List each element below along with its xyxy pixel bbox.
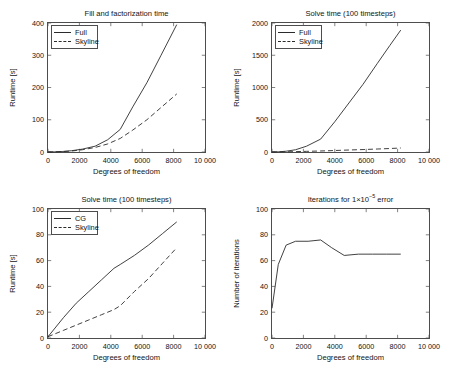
legend-entry-label: Full bbox=[299, 28, 311, 37]
y-axis-label-iterations-for-error: Number of iterations bbox=[232, 188, 241, 359]
series-line-number-of-iterations bbox=[272, 240, 401, 308]
panel-title-suffix: error bbox=[375, 195, 393, 204]
x-tick-label: 10 000 bbox=[409, 156, 449, 165]
x-axis-label-solve-time-cg-vs-skyline: Degrees of freedom bbox=[17, 353, 236, 362]
panel-title-iterations-for-error: Iterations for 1×10−5 error bbox=[231, 195, 449, 204]
plot-area-iterations-for-error bbox=[271, 208, 430, 339]
y-axis-label-fill-and-factorization-time: Runtime [s] bbox=[8, 2, 17, 173]
panel-title-prefix: Iterations for 1×10 bbox=[308, 195, 369, 204]
legend-line-sample-dashed-icon bbox=[278, 41, 295, 42]
legend-line-sample-dashed-icon bbox=[54, 227, 71, 228]
series-line-skyline bbox=[48, 248, 177, 337]
legend-line-sample-solid-icon bbox=[54, 32, 71, 33]
legend-entry-skyline[interactable]: Skyline bbox=[54, 37, 93, 46]
x-tick-label: 10 000 bbox=[185, 156, 225, 165]
y-axis-label-solve-time-full-vs-skyline: Runtime [s] bbox=[232, 2, 241, 173]
legend-solve-time-full-vs-skyline[interactable]: FullSkyline bbox=[275, 25, 322, 49]
legend-entry-label: Skyline bbox=[299, 37, 323, 46]
legend-entry-skyline[interactable]: Skyline bbox=[54, 223, 93, 232]
legend-entry-label: Full bbox=[75, 28, 87, 37]
y-axis-label-solve-time-cg-vs-skyline: Runtime [s] bbox=[8, 188, 17, 359]
legend-solve-time-cg-vs-skyline[interactable]: CGSkyline bbox=[51, 211, 98, 235]
legend-line-sample-solid-icon bbox=[278, 32, 295, 33]
legend-entry-label: CG bbox=[75, 214, 86, 223]
x-axis-label-fill-and-factorization-time: Degrees of freedom bbox=[17, 167, 236, 176]
panel-title-fill-and-factorization-time: Fill and factorization time bbox=[7, 9, 246, 18]
legend-line-sample-dashed-icon bbox=[54, 41, 71, 42]
series-line-cg bbox=[48, 222, 177, 337]
panel-title-solve-time-full-vs-skyline: Solve time (100 timesteps) bbox=[231, 9, 449, 18]
panel-title-solve-time-cg-vs-skyline: Solve time (100 timesteps) bbox=[7, 195, 246, 204]
legend-entry-full[interactable]: Full bbox=[54, 28, 93, 37]
x-axis-label-iterations-for-error: Degrees of freedom bbox=[241, 353, 449, 362]
legend-entry-skyline[interactable]: Skyline bbox=[278, 37, 317, 46]
series-line-skyline bbox=[48, 94, 177, 152]
legend-fill-and-factorization-time[interactable]: FullSkyline bbox=[51, 25, 98, 49]
x-tick-label: 10 000 bbox=[409, 342, 449, 351]
legend-line-sample-solid-icon bbox=[54, 218, 71, 219]
legend-entry-label: Skyline bbox=[75, 223, 99, 232]
figure-canvas: Fill and factorization time0100200300400… bbox=[0, 0, 449, 373]
x-axis-label-solve-time-full-vs-skyline: Degrees of freedom bbox=[241, 167, 449, 176]
legend-entry-label: Skyline bbox=[75, 37, 99, 46]
legend-entry-full[interactable]: Full bbox=[278, 28, 317, 37]
x-tick-label: 10 000 bbox=[185, 342, 225, 351]
legend-entry-cg[interactable]: CG bbox=[54, 214, 93, 223]
